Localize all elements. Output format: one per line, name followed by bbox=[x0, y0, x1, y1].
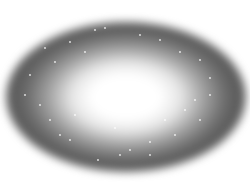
star-point bbox=[184, 109, 186, 111]
star-point bbox=[194, 99, 196, 101]
star-point bbox=[114, 127, 116, 129]
star-point bbox=[74, 114, 76, 116]
star-point bbox=[39, 104, 41, 106]
star-point bbox=[94, 29, 96, 31]
star-point bbox=[119, 154, 121, 156]
star-point bbox=[69, 41, 71, 43]
star-point bbox=[139, 34, 141, 36]
star-point bbox=[24, 94, 26, 96]
star-point bbox=[29, 74, 31, 76]
star-point bbox=[209, 77, 211, 79]
star-point bbox=[44, 47, 46, 49]
star-point bbox=[179, 51, 181, 53]
star-point bbox=[49, 119, 51, 121]
star-point bbox=[97, 159, 99, 161]
star-point bbox=[69, 139, 71, 141]
star-point bbox=[54, 61, 56, 63]
star-point bbox=[84, 51, 86, 53]
star-field bbox=[0, 0, 250, 185]
star-point bbox=[59, 134, 61, 136]
galaxy-image bbox=[0, 0, 250, 185]
star-point bbox=[149, 141, 151, 143]
star-point bbox=[209, 94, 211, 96]
star-point bbox=[174, 134, 176, 136]
star-point bbox=[149, 154, 151, 156]
star-point bbox=[104, 27, 106, 29]
star-point bbox=[199, 59, 201, 61]
star-point bbox=[164, 119, 166, 121]
star-point bbox=[129, 149, 131, 151]
star-point bbox=[159, 39, 161, 41]
star-point bbox=[199, 119, 201, 121]
